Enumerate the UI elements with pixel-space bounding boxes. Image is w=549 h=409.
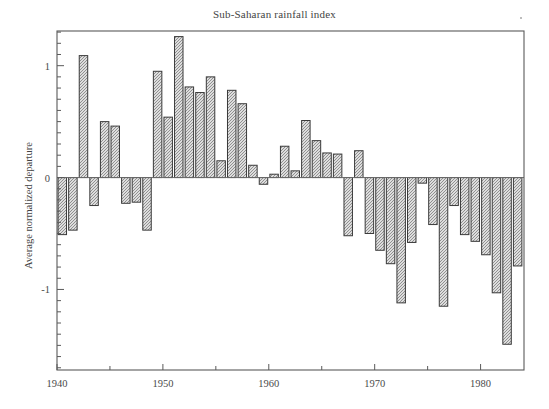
bar	[153, 71, 161, 177]
y-tick-label: -1	[41, 284, 50, 295]
bar	[79, 56, 87, 178]
bar	[302, 121, 310, 178]
bar	[408, 178, 416, 243]
bar	[185, 87, 193, 178]
bar	[323, 153, 331, 178]
x-tick-label: 1950	[152, 378, 173, 389]
bar	[206, 77, 214, 178]
bar	[196, 93, 204, 178]
x-tick-label: 1960	[258, 378, 279, 389]
bar	[344, 178, 352, 236]
plot-area: 1940195019601970198010-1	[0, 0, 549, 409]
bar	[249, 165, 257, 177]
bar	[69, 178, 77, 231]
bar	[259, 178, 267, 185]
bar	[122, 178, 130, 204]
bar	[492, 178, 500, 293]
x-tick-label: 1940	[47, 378, 68, 389]
bar	[471, 178, 479, 242]
bar	[513, 178, 521, 266]
axis-tick-labels: 1940195019601970198010-1	[41, 61, 491, 389]
bar	[429, 178, 437, 225]
chart-figure: Sub-Saharan rainfall index Average norma…	[0, 0, 549, 409]
bar	[100, 122, 108, 178]
bar	[386, 178, 394, 264]
bar	[132, 178, 140, 203]
y-tick-label: 1	[45, 61, 50, 72]
bar	[397, 178, 405, 303]
axis-ticks	[57, 32, 481, 370]
bar	[482, 178, 490, 255]
bar	[90, 178, 98, 206]
bar	[238, 104, 246, 178]
bar	[217, 161, 225, 178]
bar	[333, 154, 341, 178]
bar	[365, 178, 373, 234]
bar	[143, 178, 151, 231]
bar	[439, 178, 447, 307]
bar	[312, 141, 320, 178]
bar	[175, 37, 183, 178]
y-tick-label: 0	[45, 173, 50, 184]
bar	[280, 146, 288, 177]
bar	[503, 178, 511, 345]
bar	[58, 178, 66, 235]
bar	[291, 171, 299, 178]
bar	[355, 151, 363, 178]
bar	[111, 126, 119, 177]
bar	[450, 178, 458, 206]
bar	[227, 90, 235, 177]
x-tick-label: 1980	[470, 378, 491, 389]
bars-group	[58, 37, 522, 345]
x-tick-label: 1970	[364, 378, 385, 389]
bar	[460, 178, 468, 235]
bar	[164, 117, 172, 177]
bar	[418, 178, 426, 184]
bar	[376, 178, 384, 251]
